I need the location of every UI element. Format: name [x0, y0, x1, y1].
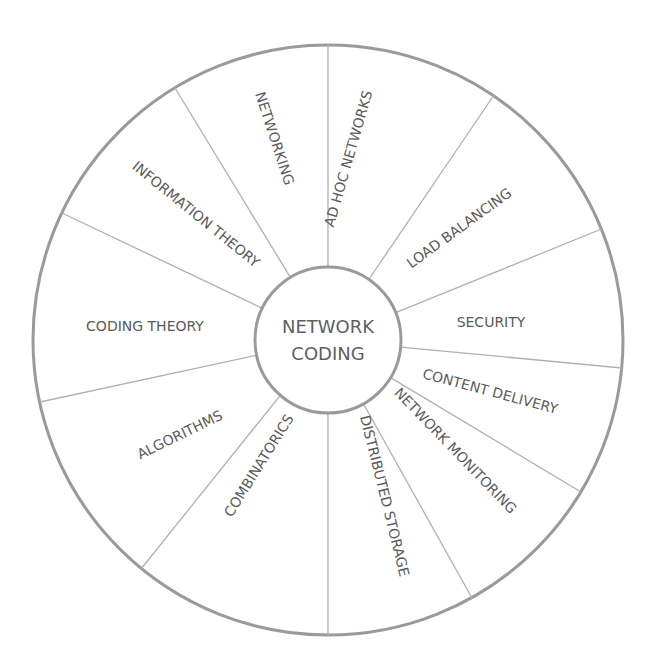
segment-label-coding-theory: CODING THEORY	[86, 318, 204, 334]
center-title-line2: CODING	[291, 343, 364, 364]
network-coding-wheel-diagram: NETWORK CODING AD HOC NETWORKS LOAD BALA…	[0, 0, 654, 664]
center-hub	[255, 267, 401, 413]
segment-label-security: SECURITY	[457, 314, 526, 330]
center-title-line1: NETWORK	[282, 316, 375, 337]
